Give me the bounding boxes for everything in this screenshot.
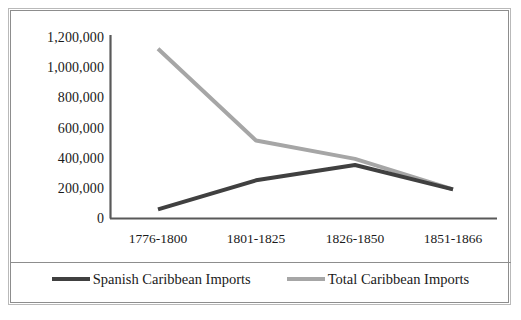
x-category-label: 1826-1850 — [305, 232, 405, 246]
y-tick-label: 1,200,000 — [24, 31, 104, 45]
x-category-label: 1801-1825 — [206, 232, 306, 246]
legend-item-spanish-caribbean-imports: Spanish Caribbean Imports — [52, 271, 251, 287]
y-tick-label: 0 — [24, 212, 104, 226]
chart-legend: Spanish Caribbean Imports Total Caribbea… — [0, 271, 521, 287]
y-tick-label: 1,000,000 — [24, 61, 104, 75]
series-spanish-caribbean-imports — [158, 165, 453, 209]
series-line-spanish — [158, 165, 453, 209]
axes — [110, 35, 497, 219]
legend-swatch-icon — [287, 277, 325, 281]
y-tick-label: 200,000 — [24, 182, 104, 196]
x-category-label: 1776-1800 — [108, 232, 208, 246]
series-total-caribbean-imports — [158, 49, 453, 190]
y-tick-label: 800,000 — [24, 91, 104, 105]
legend-label: Total Caribbean Imports — [328, 271, 470, 287]
x-category-label: 1851-1866 — [403, 232, 503, 246]
legend-divider — [10, 262, 511, 263]
legend-item-total-caribbean-imports: Total Caribbean Imports — [287, 271, 470, 287]
legend-label: Spanish Caribbean Imports — [93, 271, 251, 287]
y-tick-label: 600,000 — [24, 122, 104, 136]
y-tick-label: 400,000 — [24, 152, 104, 166]
legend-swatch-icon — [52, 277, 90, 281]
series-line-total — [158, 49, 453, 190]
